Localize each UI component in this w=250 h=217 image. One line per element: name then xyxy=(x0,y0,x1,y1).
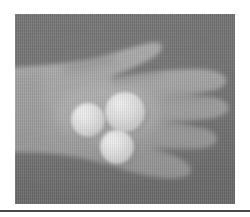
highlight-sphere-bottom xyxy=(105,135,119,147)
highlight-sphere-left xyxy=(76,108,90,120)
wrist-shadow xyxy=(15,71,45,148)
photograph-canvas xyxy=(15,14,235,204)
wrist-shading xyxy=(15,71,45,148)
sphere-top xyxy=(105,92,145,132)
page-root xyxy=(0,0,250,217)
sphere-bottom xyxy=(100,130,134,164)
bottom-horizontal-rule xyxy=(0,210,250,212)
figure-hand-holding-three-spheres xyxy=(15,14,235,204)
sphere-left xyxy=(71,103,105,137)
highlight-sphere-top xyxy=(111,98,127,112)
